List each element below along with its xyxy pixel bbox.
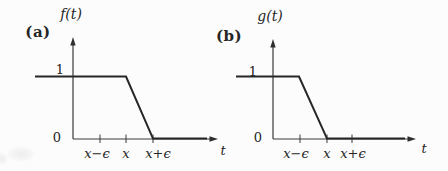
panel-b-label: (b) [216,29,242,44]
function-sketch-figure: (a) f(t) 1 0 x−ϵ x x+ϵ t (b) g(t) 1 0 x−… [0,0,448,171]
panel-b-t-axis-label: t [421,142,426,155]
panel-a-y-axis-arrow-icon [70,37,75,46]
panel-b-y-label-zero: 0 [254,131,262,144]
panel-a-axis-title: f(t) [60,7,82,21]
panel-a-t-axis-arrow-icon [210,136,219,142]
panel-b-t-axis-arrow-icon [408,136,417,142]
panel-b-axis-title: g(t) [257,9,283,23]
panel-b-y-label-one: 1 [249,65,257,78]
panel-b-ticklabel-x: x [323,147,330,160]
panel-a-y-label-one: 1 [56,63,64,76]
panel-b-ticklabel-x-minus-eps: x−ϵ [283,147,309,160]
panel-b-y-axis-arrow-icon [270,39,275,48]
panel-a-plot [35,37,218,143]
panel-a-ticklabel-x: x [122,147,129,160]
panel-b-plot [236,39,416,143]
panel-a-label: (a) [25,25,50,40]
panel-a-y-label-zero: 0 [53,131,61,144]
panel-a-t-axis-label: t [220,144,225,157]
panel-a-ticklabel-x-minus-eps: x−ϵ [84,147,110,160]
panel-b-ticklabel-x-plus-eps: x+ϵ [340,147,366,160]
panel-a-ticklabel-x-plus-eps: x+ϵ [145,147,171,160]
